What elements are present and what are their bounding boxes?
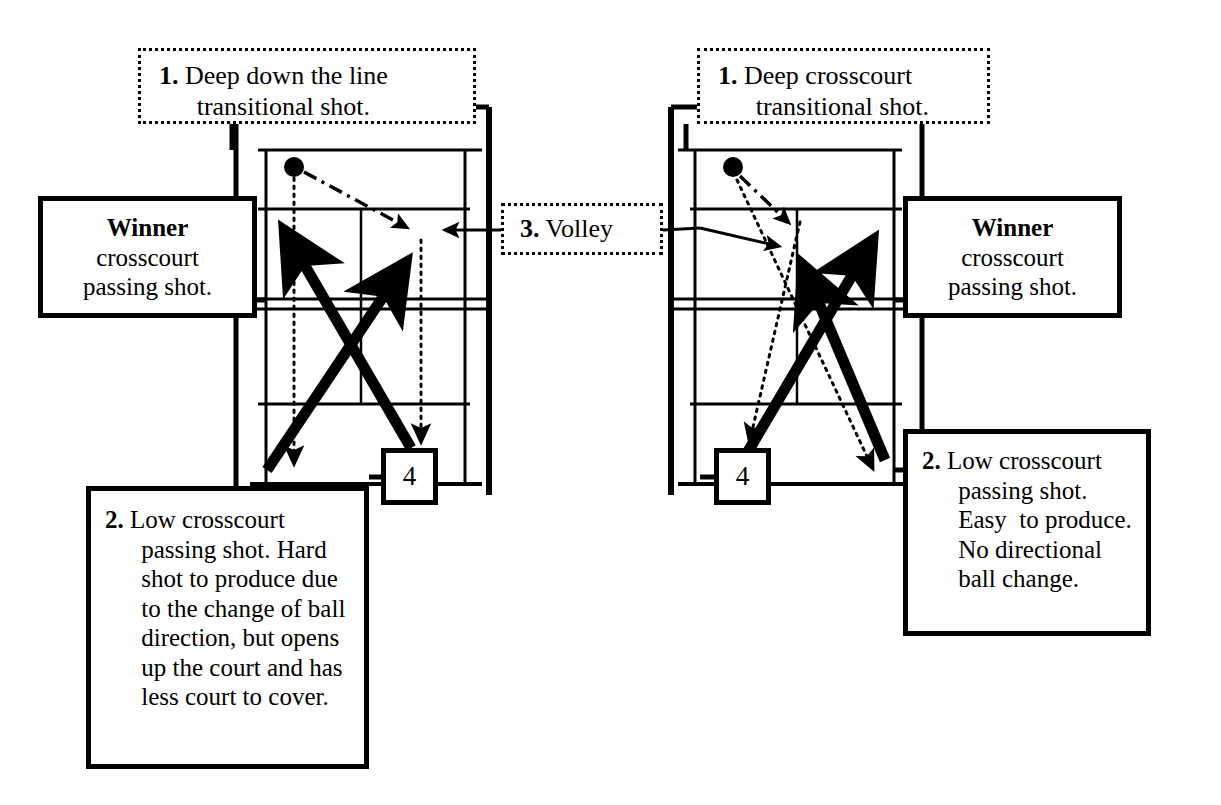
diagram-canvas: 1. Deep down the line transitional shot.… bbox=[0, 0, 1221, 805]
left-court-transitional-shot-dashed bbox=[304, 172, 406, 227]
callout-right-1-number: 1. bbox=[718, 61, 738, 90]
winner-box-right[interactable]: Winner crosscourt passing shot. bbox=[903, 196, 1122, 318]
connector-lines bbox=[232, 107, 903, 477]
callout-volley-number: 3. bbox=[520, 214, 540, 243]
callout-left-2-text: 2. Low crosscourt passing shot. Hard sho… bbox=[105, 505, 356, 712]
callout-left-1-text: 1. Deep down the line transitional shot. bbox=[159, 61, 473, 122]
left-court-passing-shot-up-right bbox=[267, 267, 403, 470]
callout-volley-text: 3. Volley bbox=[520, 214, 660, 245]
winner-box-left-heading: Winner bbox=[53, 213, 242, 243]
winner-box-left-line3: passing shot. bbox=[53, 272, 242, 302]
callout-right-2-number: 2. bbox=[922, 447, 941, 474]
marker-box-left-4[interactable]: 4 bbox=[381, 448, 438, 505]
callout-left-low-crosscourt[interactable]: 2. Low crosscourt passing shot. Hard sho… bbox=[86, 486, 369, 769]
callout-left-1-number: 1. bbox=[159, 61, 179, 90]
left-court bbox=[236, 104, 489, 498]
callout-left-2-number: 2. bbox=[105, 506, 124, 533]
callout-right-low-crosscourt[interactable]: 2. Low crosscourt passing shot. Easy to … bbox=[903, 429, 1151, 636]
callout-left-deep-down-the-line[interactable]: 1. Deep down the line transitional shot. bbox=[138, 48, 476, 124]
marker-box-right-4-label: 4 bbox=[736, 461, 750, 492]
right-court bbox=[671, 104, 922, 498]
callout-right-2-body: Low crosscourt passing shot. Easy to pro… bbox=[947, 447, 1138, 592]
marker-box-left-4-label: 4 bbox=[403, 461, 417, 492]
callout-right-1-body: Deep crosscourt transitional shot. bbox=[744, 61, 929, 121]
callout-right-1-text: 1. Deep crosscourt transitional shot. bbox=[718, 61, 987, 122]
marker-box-right-4[interactable]: 4 bbox=[714, 448, 771, 505]
callout-volley[interactable]: 3. Volley bbox=[501, 203, 663, 255]
callout-left-2-body: Low crosscourt passing shot. Hard shot t… bbox=[130, 506, 352, 710]
right-court-volley-target-arrow bbox=[700, 228, 778, 246]
winner-box-right-heading: Winner bbox=[918, 213, 1107, 243]
winner-box-right-line2: crosscourt bbox=[918, 243, 1107, 273]
callout-right-deep-crosscourt[interactable]: 1. Deep crosscourt transitional shot. bbox=[697, 48, 990, 124]
winner-box-left[interactable]: Winner crosscourt passing shot. bbox=[38, 196, 257, 318]
callout-right-2-text: 2. Low crosscourt passing shot. Easy to … bbox=[922, 446, 1138, 594]
left-court-ball-marker bbox=[284, 157, 304, 177]
winner-box-left-line2: crosscourt bbox=[53, 243, 242, 273]
connector-volley-to-right-court bbox=[663, 228, 700, 230]
right-court-transitional-shot-dashed bbox=[740, 176, 788, 222]
callout-volley-body: Volley bbox=[546, 214, 613, 243]
winner-box-right-line3: passing shot. bbox=[918, 272, 1107, 302]
right-court-ball-marker bbox=[723, 157, 743, 177]
right-court-recovery-path-dotted-right bbox=[737, 180, 872, 467]
callout-left-1-body: Deep down the line transitional shot. bbox=[185, 61, 394, 121]
